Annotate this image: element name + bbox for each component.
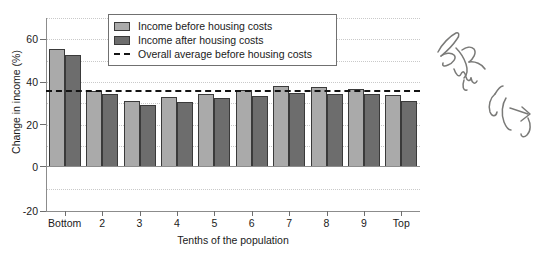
x-tick	[214, 211, 215, 216]
average-reference-line	[46, 90, 420, 92]
bar-income-after	[252, 96, 268, 167]
legend-item-income-after: Income after housing costs	[114, 33, 330, 47]
bar-income-after	[401, 101, 417, 167]
y-tick-label--20: -20	[4, 206, 38, 217]
bar-income-before	[348, 89, 364, 167]
x-tick	[140, 211, 141, 216]
bar-income-before	[236, 90, 252, 167]
chart-legend: Income before housing costs Income after…	[108, 14, 337, 66]
x-tick	[327, 211, 328, 216]
legend-label-income-before: Income before housing costs	[138, 21, 272, 32]
bar-income-after	[364, 94, 380, 167]
bar-income-after	[327, 94, 343, 167]
y-tick-label-20: 20	[4, 120, 38, 131]
bar-income-after	[102, 94, 118, 167]
bar-income-after	[140, 105, 156, 167]
x-tick	[177, 211, 178, 216]
handwritten-annotation	[432, 28, 547, 148]
bar-income-before	[311, 87, 327, 167]
legend-swatch-dark-icon	[114, 36, 130, 45]
bar-income-after	[289, 93, 305, 167]
legend-dashed-line-icon	[114, 53, 130, 55]
zero-baseline	[46, 166, 420, 167]
legend-item-income-before: Income before housing costs	[114, 19, 330, 33]
legend-swatch-light-icon	[114, 22, 130, 31]
bar-income-before	[49, 49, 65, 167]
bar-income-before	[198, 94, 214, 167]
y-tick-label-0: 0	[4, 162, 38, 173]
bar-group	[385, 18, 417, 167]
legend-item-overall-average: Overall average before housing costs	[114, 47, 330, 61]
x-tick	[65, 211, 66, 216]
x-tick	[289, 211, 290, 216]
x-tick	[364, 211, 365, 216]
bar-income-before	[86, 91, 102, 167]
y-tick-label-60: 60	[4, 34, 38, 45]
gridline--5	[46, 189, 420, 190]
bar-income-before	[161, 97, 177, 167]
y-axis-labels: 60 40 20 0 -20	[0, 0, 38, 254]
legend-label-overall-average: Overall average before housing costs	[138, 49, 312, 60]
bar-income-after	[177, 102, 193, 167]
y-tick-label-40: 40	[4, 77, 38, 88]
bar-group	[348, 18, 380, 167]
x-tick	[102, 211, 103, 216]
x-tick	[252, 211, 253, 216]
legend-label-income-after: Income after housing costs	[138, 35, 263, 46]
bar-income-after	[214, 98, 230, 167]
bar-group	[49, 18, 81, 167]
bar-income-before	[273, 86, 289, 168]
x-axis-title: Tenths of the population	[46, 234, 420, 246]
x-tick-label: Top	[371, 218, 431, 229]
bar-income-before	[124, 101, 140, 167]
bar-income-before	[385, 95, 401, 167]
x-tick	[401, 211, 402, 216]
chart-figure: Change in income (%) 60 40 20 0 -20 Bott…	[0, 0, 551, 254]
bar-income-after	[65, 55, 81, 167]
